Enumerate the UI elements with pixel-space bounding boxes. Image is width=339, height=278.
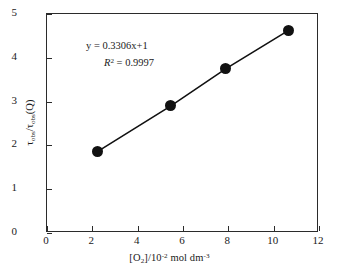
series-polyline	[97, 30, 289, 152]
data-series-line	[0, 0, 339, 278]
chart-figure: τobs/τobs(Q) [O2]/10-2 mol dm-3 01234502…	[0, 0, 339, 278]
